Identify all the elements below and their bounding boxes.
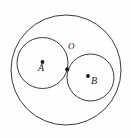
center-dot-b [86, 74, 90, 78]
label-center-a: A [38, 63, 44, 73]
label-center-b: B [91, 76, 97, 86]
label-tangent-point-o: O [68, 42, 75, 51]
tangent-point-dot-o [65, 67, 69, 71]
geometry-figure: A B O [0, 0, 131, 138]
circles-diagram-svg [0, 0, 131, 138]
